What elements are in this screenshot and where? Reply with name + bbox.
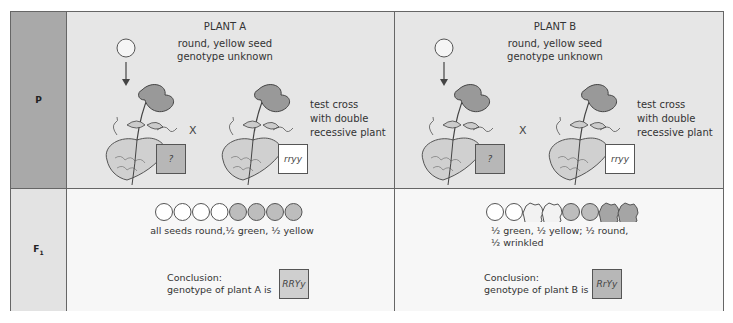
row-label-p: P: [11, 12, 67, 189]
plant-b-conclusion: Conclusion:genotype of plant B is: [484, 272, 589, 296]
plant-a-genotype-box: RRYy: [279, 269, 309, 299]
p-label: P: [35, 95, 42, 105]
plant-b-parental-cell: PLANT B round, yellow seedgenotype unkno…: [395, 12, 723, 189]
cross-symbol: X: [189, 124, 197, 137]
cross-symbol: X: [519, 124, 527, 137]
plant-a-title: PLANT A: [145, 21, 305, 32]
plant-b-title: PLANT B: [475, 21, 635, 32]
plant-a-conclusion: Conclusion:genotype of plant A is: [167, 272, 272, 296]
plant-a-desc: round, yellow seedgenotype unknown: [145, 37, 305, 63]
row-label-f1: F1: [11, 189, 67, 311]
plant-a-f1-cell: all seeds round,½ green, ½ yellow Conclu…: [67, 189, 395, 311]
plant-b-f1-description: ½ green, ½ yellow; ½ round,½ wrinkled: [491, 225, 628, 249]
plant-a-f1-description: all seeds round,½ green, ½ yellow: [147, 225, 317, 237]
plant-b-genotype-box: RrYy: [592, 269, 622, 299]
test-cross-note: test crosswith doublerecessive plant: [310, 98, 386, 140]
test-cross-note: test crosswith doublerecessive plant: [637, 98, 713, 140]
f1-label: F1: [33, 244, 43, 256]
plant-b-f1-seeds: [486, 202, 644, 222]
unknown-genotype-box: ?: [475, 144, 505, 174]
recessive-genotype-box: rryy: [605, 144, 635, 174]
plant-a-f1-seeds: [155, 202, 307, 222]
unknown-genotype-box: ?: [156, 144, 186, 174]
test-cross-table: P F1 PLANT A round, yellow seedgenotype …: [10, 11, 724, 311]
plant-b-desc: round, yellow seedgenotype unknown: [475, 37, 635, 63]
plant-a-parental-cell: PLANT A round, yellow seedgenotype unkno…: [67, 12, 395, 189]
plant-b-f1-cell: ½ green, ½ yellow; ½ round,½ wrinkled Co…: [395, 189, 723, 311]
recessive-genotype-box: rryy: [278, 144, 308, 174]
